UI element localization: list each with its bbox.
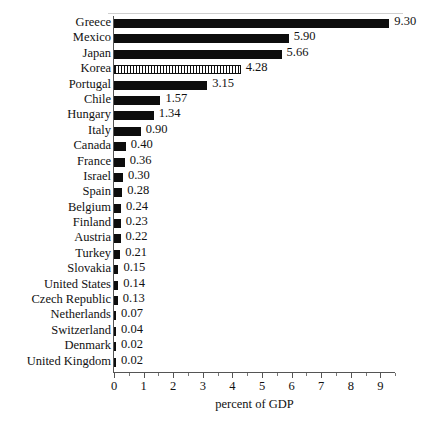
x-tick-minor: [395, 373, 396, 376]
bar-track: [114, 65, 241, 74]
x-axis-title: percent of GDP: [114, 397, 395, 412]
bar-track: [114, 265, 118, 274]
bar-value-label: 0.36: [130, 153, 152, 168]
x-axis-line: [114, 372, 395, 373]
bar-value-label: 0.23: [126, 214, 148, 229]
category-label: Slovakia: [0, 261, 111, 276]
category-label: Austria: [0, 230, 111, 245]
bar-value-label: 1.57: [165, 91, 187, 106]
category-label: Spain: [0, 184, 111, 199]
bar: [114, 250, 120, 259]
x-tick-label: 7: [306, 378, 336, 394]
x-tick-label: 5: [247, 378, 277, 394]
bar-value-label: 0.14: [123, 276, 145, 291]
x-tick-label: 1: [129, 378, 159, 394]
x-tick-minor: [129, 373, 130, 376]
bar-track: [114, 296, 118, 305]
bar-value-label: 0.07: [121, 306, 143, 321]
bar-row: Japan5.66: [0, 47, 433, 62]
category-label: Japan: [0, 46, 111, 61]
x-tick-minor: [247, 373, 248, 376]
bar-row: Slovakia0.15: [0, 262, 433, 277]
bar: [114, 281, 118, 290]
category-label: Belgium: [0, 200, 111, 215]
bar-row: Austria0.22: [0, 231, 433, 246]
category-label: Denmark: [0, 338, 111, 353]
bar-value-label: 9.30: [394, 14, 416, 29]
bar-track: [114, 327, 116, 336]
bar-track: [114, 250, 120, 259]
bar-track: [114, 19, 389, 28]
bar-row: Greece9.30: [0, 16, 433, 31]
bar-track: [114, 281, 118, 290]
x-tick-minor: [366, 373, 367, 376]
bar-track: [114, 219, 121, 228]
bar: [114, 142, 126, 151]
bar-row: Israel0.30: [0, 170, 433, 185]
bar-track: [114, 158, 125, 167]
bar-value-label: 0.13: [123, 291, 145, 306]
category-label: Czech Republic: [0, 292, 111, 307]
bar: [114, 34, 289, 43]
bar-value-label: 1.34: [159, 106, 181, 121]
category-label: Turkey: [0, 246, 111, 261]
bar-value-label: 3.15: [212, 76, 234, 91]
x-tick-minor: [218, 373, 219, 376]
x-tick-minor: [277, 373, 278, 376]
x-tick-minor: [336, 373, 337, 376]
bar-row: United States0.14: [0, 278, 433, 293]
bar-row: Netherlands0.07: [0, 308, 433, 323]
bar: [114, 358, 116, 367]
x-tick-label: 8: [336, 378, 366, 394]
bar: [114, 265, 118, 274]
bar-row: Switzerland0.04: [0, 324, 433, 339]
y-axis-line: [113, 16, 114, 373]
bar-row: Czech Republic0.13: [0, 293, 433, 308]
bar: [114, 96, 160, 105]
x-tick-label: 9: [365, 378, 395, 394]
bar: [114, 234, 121, 243]
bar-track: [114, 96, 160, 105]
category-label: United States: [0, 277, 111, 292]
bar-row: Italy0.90: [0, 124, 433, 139]
bar: [114, 158, 125, 167]
bar-value-label: 0.04: [121, 322, 143, 337]
x-tick-label: 6: [277, 378, 307, 394]
bar: [114, 188, 122, 197]
bar-track: [114, 204, 121, 213]
bar: [114, 296, 118, 305]
bar-track: [114, 234, 121, 243]
bar-track: [114, 127, 141, 136]
bar: [114, 342, 116, 351]
category-label: Hungary: [0, 107, 111, 122]
x-tick-minor: [158, 373, 159, 376]
bar-row: Finland0.23: [0, 216, 433, 231]
category-label: Korea: [0, 61, 111, 76]
category-label: Mexico: [0, 30, 111, 45]
bar-track: [114, 142, 126, 151]
category-label: Italy: [0, 123, 111, 138]
bar-track: [114, 111, 154, 120]
bar-value-label: 0.40: [131, 137, 153, 152]
bar-value-label: 5.90: [294, 29, 316, 44]
bar-row: Hungary1.34: [0, 108, 433, 123]
bar-row: Mexico5.90: [0, 31, 433, 46]
bar: [114, 173, 123, 182]
x-tick-minor: [306, 373, 307, 376]
bar-value-label: 0.02: [121, 353, 143, 368]
bar-highlighted: [114, 65, 241, 74]
category-label: Chile: [0, 92, 111, 107]
bar-row: Canada0.40: [0, 139, 433, 154]
bar-track: [114, 188, 122, 197]
bar-value-label: 4.28: [246, 60, 268, 75]
category-label: United Kingdom: [0, 354, 111, 369]
bar-value-label: 0.02: [121, 337, 143, 352]
x-tick-label: 3: [188, 378, 218, 394]
bar: [114, 127, 141, 136]
category-label: Switzerland: [0, 323, 111, 338]
x-tick-label: 2: [158, 378, 188, 394]
bar-track: [114, 311, 116, 320]
bar-row: Belgium0.24: [0, 201, 433, 216]
bar-track: [114, 173, 123, 182]
bar: [114, 219, 121, 228]
